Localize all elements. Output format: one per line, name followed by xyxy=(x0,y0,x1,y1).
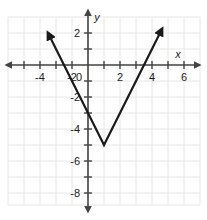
x-tick-label-4: 4 xyxy=(149,71,155,83)
graph-figure: -4 -2 0 2 4 6 2 -2 -4 -6 -8 x y xyxy=(0,0,207,220)
y-tick-label-neg8: -8 xyxy=(70,187,80,199)
x-tick-label-6: 6 xyxy=(181,71,187,83)
x-tick-label-2: 2 xyxy=(117,71,123,83)
coordinate-plane: -4 -2 0 2 4 6 2 -2 -4 -6 -8 x y xyxy=(0,0,207,220)
origin-label: 0 xyxy=(76,71,82,83)
y-tick-label-2: 2 xyxy=(74,27,80,39)
x-axis-label: x xyxy=(174,48,181,60)
x-tick-label-neg4: -4 xyxy=(35,71,45,83)
y-tick-label-neg6: -6 xyxy=(70,155,80,167)
y-tick-label-neg4: -4 xyxy=(70,123,80,135)
